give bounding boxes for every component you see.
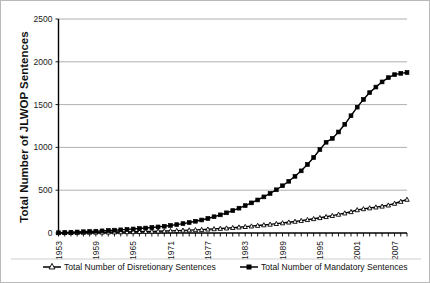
data-point-marker xyxy=(380,204,384,208)
data-point-marker xyxy=(94,229,98,233)
y-axis-title: Total Number of JLWOP Sentences xyxy=(18,31,30,222)
data-point-marker xyxy=(169,224,173,228)
data-point-marker xyxy=(250,201,254,205)
data-point-marker xyxy=(355,105,359,109)
triangle-open-icon xyxy=(49,263,55,269)
data-point-marker xyxy=(218,213,222,217)
data-point-marker xyxy=(187,228,191,232)
data-point-marker xyxy=(88,230,92,234)
x-tick-label: 1977 xyxy=(203,241,213,260)
y-tick-label: 2500 xyxy=(34,14,53,24)
data-point-marker xyxy=(168,229,172,233)
data-point-marker xyxy=(374,85,378,89)
data-point-marker xyxy=(343,211,347,215)
x-tick-label: 1959 xyxy=(91,241,101,260)
gridlines xyxy=(59,19,408,190)
data-point-marker xyxy=(349,209,353,213)
legend-label: Total Number of Mandatory Sentences xyxy=(261,262,408,272)
data-point-marker xyxy=(274,221,278,225)
data-point-marker xyxy=(299,218,303,222)
x-tick-label: 2001 xyxy=(352,241,362,260)
data-point-marker xyxy=(337,130,341,134)
data-point-marker xyxy=(262,195,266,199)
data-point-marker xyxy=(187,221,191,225)
data-point-marker xyxy=(212,215,216,219)
data-point-marker xyxy=(218,226,222,230)
data-series-layer xyxy=(56,71,409,235)
data-point-marker xyxy=(293,219,297,223)
data-point-marker xyxy=(206,227,210,231)
data-point-marker xyxy=(318,215,322,219)
data-point-marker xyxy=(156,225,160,229)
data-point-marker xyxy=(224,226,228,230)
x-tick-label: 2007 xyxy=(390,241,400,260)
data-point-marker xyxy=(249,224,253,228)
data-point-marker xyxy=(262,223,266,227)
data-point-marker xyxy=(361,207,365,211)
data-point-marker xyxy=(399,71,403,75)
data-point-marker xyxy=(237,225,241,229)
data-point-marker xyxy=(237,206,241,210)
chart-legend: Total Number of Disretionary SentencesTo… xyxy=(43,262,408,272)
y-tick-label: 500 xyxy=(38,185,52,195)
y-tick-label: 0 xyxy=(48,228,53,238)
data-point-marker xyxy=(311,216,315,220)
data-point-marker xyxy=(287,179,291,183)
data-point-marker xyxy=(63,231,67,235)
legend-entry[interactable]: Total Number of Disretionary Sentences xyxy=(43,262,216,272)
data-point-marker xyxy=(405,197,409,201)
data-point-marker xyxy=(212,227,216,231)
data-point-marker xyxy=(231,209,235,213)
data-point-marker xyxy=(318,148,322,152)
legend-entry[interactable]: Total Number of Mandatory Sentences xyxy=(240,262,408,272)
jlwop-sentences-line-chart: Total Number of JLWOP Sentences 05001000… xyxy=(1,1,430,283)
data-point-marker xyxy=(306,163,310,167)
data-point-marker xyxy=(268,192,272,196)
data-point-marker xyxy=(392,201,396,205)
data-point-marker xyxy=(119,228,123,232)
data-point-marker xyxy=(281,184,285,188)
data-point-marker xyxy=(181,222,185,226)
data-point-marker xyxy=(181,228,185,232)
data-point-marker xyxy=(324,214,328,218)
data-point-marker xyxy=(405,71,409,75)
data-point-marker xyxy=(355,208,359,212)
data-point-marker xyxy=(374,205,378,209)
data-point-marker xyxy=(393,73,397,77)
x-axis-tick-labels: 1953195919651971197719831989199520012007 xyxy=(54,241,400,260)
data-point-marker xyxy=(193,228,197,232)
data-point-marker xyxy=(162,229,166,233)
y-axis-tick-labels: 05001000150020002500 xyxy=(34,14,53,238)
y-tick-label: 2000 xyxy=(34,57,53,67)
data-point-marker xyxy=(280,221,284,225)
data-point-marker xyxy=(138,227,142,231)
data-point-marker xyxy=(113,228,117,232)
x-tick-label: 1953 xyxy=(54,241,64,260)
data-point-marker xyxy=(81,230,85,234)
data-point-marker xyxy=(175,223,179,227)
square-filled-icon xyxy=(247,265,252,270)
data-point-marker xyxy=(131,227,135,231)
x-tick-label: 1989 xyxy=(278,241,288,260)
data-point-marker xyxy=(336,212,340,216)
data-point-marker xyxy=(255,223,259,227)
data-point-marker xyxy=(150,226,154,230)
data-point-marker xyxy=(206,217,210,221)
chart-figure: Total Number of JLWOP Sentences 05001000… xyxy=(0,0,430,283)
data-point-marker xyxy=(362,98,366,102)
data-point-marker xyxy=(200,218,204,222)
data-point-marker xyxy=(349,114,353,118)
data-point-marker xyxy=(144,226,148,230)
data-point-marker xyxy=(57,231,61,235)
data-point-marker xyxy=(367,206,371,210)
data-point-marker xyxy=(156,229,160,233)
data-point-marker xyxy=(343,122,347,126)
data-point-marker xyxy=(231,225,235,229)
data-point-marker xyxy=(399,199,403,203)
data-point-marker xyxy=(175,228,179,232)
data-point-marker xyxy=(162,224,166,228)
x-tick-label: 1965 xyxy=(128,241,138,260)
data-point-marker xyxy=(194,219,198,223)
data-point-marker xyxy=(299,169,303,173)
data-point-marker xyxy=(305,217,309,221)
